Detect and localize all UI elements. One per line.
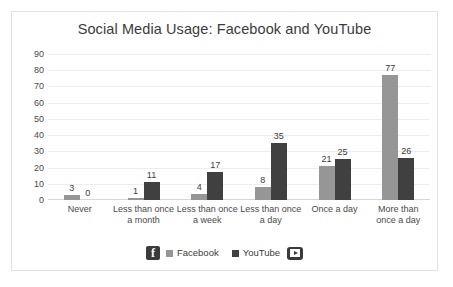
chart-container: Social Media Usage: Facebook and YouTube…: [11, 11, 438, 271]
bar-youtube[interactable]: 11: [144, 182, 160, 200]
bar-value-label: 25: [338, 148, 348, 157]
bar-pair: 835: [255, 54, 287, 200]
x-axis-label-line: Less than once: [176, 204, 238, 215]
x-axis-label-line: a day: [240, 215, 302, 226]
x-axis-label-line: a month: [113, 215, 175, 226]
bar-facebook[interactable]: 77: [382, 75, 398, 200]
legend-entry-facebook[interactable]: Facebook: [166, 248, 219, 258]
y-axis-tick: 10: [16, 179, 44, 188]
bar-value-label: 3: [69, 184, 74, 193]
bar-pair: 111: [128, 54, 160, 200]
x-axis-label-line: Less than once: [240, 204, 302, 215]
bars-layer: 3011141783521257726: [48, 54, 430, 200]
x-axis-label-line: a week: [176, 215, 238, 226]
bar-group: 111: [112, 54, 176, 200]
legend-entry-youtube[interactable]: YouTube: [232, 248, 280, 258]
y-axis-tick: 80: [16, 66, 44, 75]
y-axis-tick: 40: [16, 131, 44, 140]
bar-pair: 7726: [382, 54, 414, 200]
y-axis-tick: 20: [16, 163, 44, 172]
y-axis-tick: 90: [16, 50, 44, 59]
x-axis-label: Less than oncea month: [112, 204, 176, 240]
x-axis-label: Once a day: [303, 204, 367, 240]
bar-pair: 2125: [319, 54, 351, 200]
bar-group: 2125: [303, 54, 367, 200]
x-axis-label-line: Never: [49, 204, 111, 215]
chart-legend: Facebook YouTube: [12, 246, 437, 260]
bar-value-label: 21: [322, 155, 332, 164]
youtube-play-triangle-icon: [294, 251, 298, 255]
bar-value-label: 35: [274, 132, 284, 141]
facebook-logo-icon: [146, 246, 160, 260]
bar-value-label: 26: [401, 147, 411, 156]
youtube-logo-icon: [287, 247, 303, 260]
bar-facebook[interactable]: 4: [191, 194, 207, 200]
bar-facebook[interactable]: 3: [64, 195, 80, 200]
bar-youtube[interactable]: 17: [207, 172, 223, 200]
y-axis-tick: 70: [16, 82, 44, 91]
bar-pair: 417: [191, 54, 223, 200]
bar-value-label: 1: [133, 187, 138, 196]
x-axis-label: More thanonce a day: [366, 204, 430, 240]
plot-area: 3011141783521257726: [48, 54, 430, 200]
legend-label-facebook: Facebook: [177, 248, 219, 258]
bar-group: 835: [239, 54, 303, 200]
x-axis-label: Less than oncea day: [239, 204, 303, 240]
bar-facebook[interactable]: 21: [319, 166, 335, 200]
bar-value-label: 4: [197, 183, 202, 192]
plot-wrapper: 9080706050403020100 3011141783521257726 …: [12, 12, 437, 270]
x-axis-label-line: once a day: [367, 215, 429, 226]
bar-value-label: 77: [385, 64, 395, 73]
bar-facebook[interactable]: 8: [255, 187, 271, 200]
bar-youtube[interactable]: 35: [271, 143, 287, 200]
y-axis-tick: 60: [16, 98, 44, 107]
x-axis-labels: NeverLess than oncea monthLess than once…: [48, 204, 430, 240]
bar-facebook[interactable]: 1: [128, 198, 144, 200]
x-axis-label: Never: [48, 204, 112, 240]
bar-youtube[interactable]: 26: [398, 158, 414, 200]
x-axis-label-line: Once a day: [304, 204, 366, 215]
legend-label-youtube: YouTube: [243, 248, 280, 258]
bar-pair: 30: [64, 54, 96, 200]
bar-group: 30: [48, 54, 112, 200]
y-axis: 9080706050403020100: [16, 54, 44, 200]
x-axis-label: Less than oncea week: [175, 204, 239, 240]
bar-group: 417: [175, 54, 239, 200]
legend-swatch-youtube: [232, 250, 239, 257]
legend-swatch-facebook: [166, 250, 173, 257]
x-axis-label-line: Less than once: [113, 204, 175, 215]
x-axis-label-line: More than: [367, 204, 429, 215]
bar-value-label: 8: [260, 176, 265, 185]
bar-group: 7726: [366, 54, 430, 200]
y-axis-tick: 0: [16, 196, 44, 205]
y-axis-tick: 50: [16, 114, 44, 123]
bar-value-label: 0: [85, 189, 90, 198]
bar-value-label: 17: [210, 161, 220, 170]
bar-value-label: 11: [147, 171, 156, 180]
y-axis-tick: 30: [16, 147, 44, 156]
bar-youtube[interactable]: 25: [335, 159, 351, 200]
